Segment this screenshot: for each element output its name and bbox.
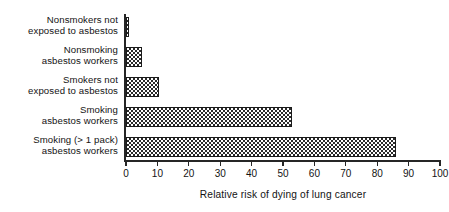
- x-axis-tick-label-100: 100: [432, 168, 449, 180]
- x-axis-tick-40: [251, 160, 252, 166]
- x-axis-tick-60: [314, 160, 315, 166]
- x-axis-tick-80: [377, 160, 378, 166]
- plot-area: 0102030405060708090100: [126, 14, 440, 160]
- x-axis-tick-90: [408, 160, 409, 166]
- x-axis-tick-label-50: 50: [277, 168, 288, 180]
- x-axis-tick-0: [125, 160, 126, 166]
- category-label-smokers-not-exposed: Smokers not exposed to asbestos: [0, 74, 118, 96]
- x-axis-tick-label-60: 60: [309, 168, 320, 180]
- bar-smokers-not-exposed: [126, 77, 159, 97]
- x-axis-tick-20: [188, 160, 189, 166]
- x-axis-tick-10: [157, 160, 158, 166]
- x-axis-tick-70: [345, 160, 346, 166]
- x-axis-tick-label-10: 10: [152, 168, 163, 180]
- x-axis-tick-label-80: 80: [372, 168, 383, 180]
- x-axis-tick-label-30: 30: [215, 168, 226, 180]
- x-axis-tick-100: [439, 160, 440, 166]
- category-label-nonsmoking-asbestos-workers: Nonsmoking asbestos workers: [0, 44, 118, 66]
- x-axis-title: Relative risk of dying of lung cancer: [126, 189, 440, 200]
- x-axis-tick-50: [282, 160, 283, 166]
- x-axis-tick-30: [220, 160, 221, 166]
- x-axis-tick-label-20: 20: [183, 168, 194, 180]
- x-axis-tick-label-70: 70: [340, 168, 351, 180]
- bar-smoking-1-pack-asbestos-workers: [126, 137, 396, 157]
- bar-chart: Nonsmokers not exposed to asbestos Nonsm…: [0, 0, 449, 212]
- category-label-nonsmokers-not-exposed: Nonsmokers not exposed to asbestos: [0, 14, 118, 36]
- category-label-smoking-1-pack-asbestos-workers: Smoking (> 1 pack) asbestos workers: [0, 134, 118, 156]
- bar-nonsmokers-not-exposed: [126, 17, 129, 37]
- bar-smoking-asbestos-workers: [126, 107, 292, 127]
- category-label-smoking-asbestos-workers: Smoking asbestos workers: [0, 104, 118, 126]
- x-axis-tick-label-90: 90: [403, 168, 414, 180]
- x-axis-tick-label-0: 0: [123, 168, 129, 180]
- bar-nonsmoking-asbestos-workers: [126, 47, 142, 67]
- x-axis-tick-label-40: 40: [246, 168, 257, 180]
